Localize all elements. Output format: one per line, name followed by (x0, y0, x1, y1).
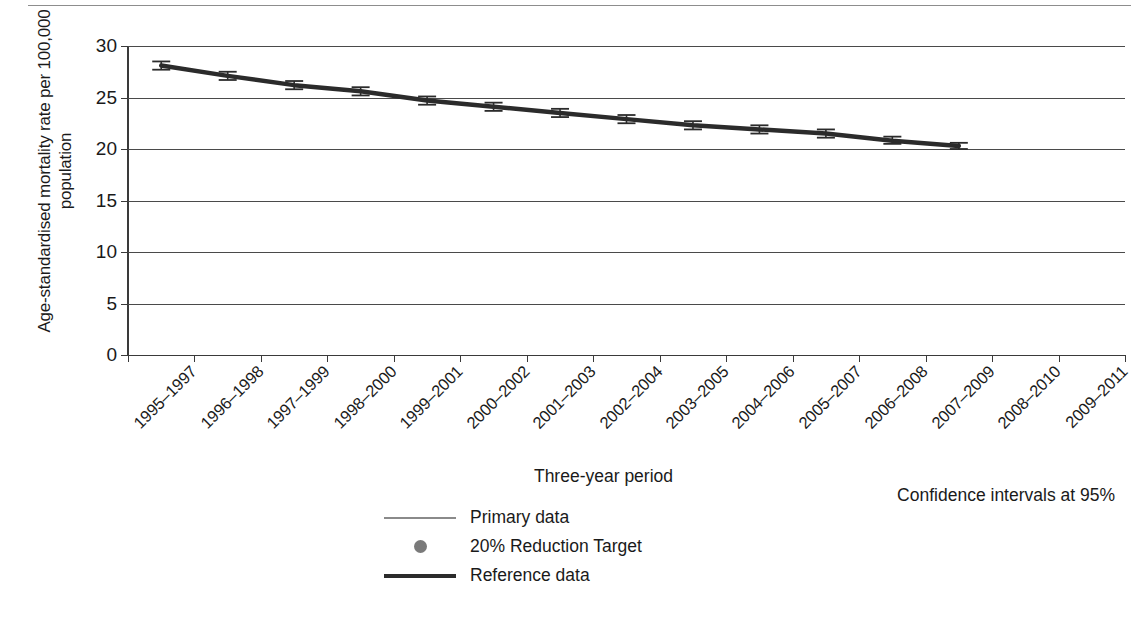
x-axis-category-label: 2007–2009 (928, 362, 999, 433)
y-axis-tick-mark (121, 304, 128, 305)
y-axis-tick-mark (121, 252, 128, 253)
x-axis-tick-mark (527, 355, 528, 362)
x-axis-category-label: 2003–2005 (662, 362, 733, 433)
x-axis-category-label: 1995–1997 (130, 362, 201, 433)
x-axis-tick-mark (926, 355, 927, 362)
x-axis-tick-mark (394, 355, 395, 362)
legend-item-label: 20% Reduction Target (470, 536, 642, 557)
x-axis-tick-mark (726, 355, 727, 362)
x-axis-category-label: 2008–2010 (994, 362, 1065, 433)
y-axis-tick-mark (121, 355, 128, 356)
dot-key-glyph (414, 540, 427, 553)
x-axis-tick-mark (327, 355, 328, 362)
y-axis-tick-label: 30 (96, 35, 117, 57)
x-axis-category-label: 2004–2006 (728, 362, 799, 433)
y-axis-tick-mark (121, 46, 128, 47)
legend-item-label: Primary data (470, 507, 569, 528)
x-axis-tick-mark (660, 355, 661, 362)
y-axis-tick-label: 5 (106, 293, 117, 315)
x-axis-tick-mark (128, 355, 129, 362)
plot-area: 051015202530 (128, 46, 1125, 355)
thin-line-key-glyph (384, 517, 456, 519)
y-axis-tick-label: 15 (96, 190, 117, 212)
chart-legend: Primary data20% Reduction TargetReferenc… (382, 503, 642, 590)
x-axis-category-label: 1998–2000 (329, 362, 400, 433)
dot-key (382, 540, 458, 553)
y-axis-tick-label: 0 (106, 344, 117, 366)
x-axis-category-label: 2002–2004 (595, 362, 666, 433)
confidence-interval-note: Confidence intervals at 95% (897, 485, 1115, 506)
thick-line-key-glyph (384, 574, 456, 578)
y-axis-tick-label: 25 (96, 87, 117, 109)
x-axis-category-label: 2000–2002 (462, 362, 533, 433)
legend-item-label: Reference data (470, 565, 590, 586)
x-axis-category-label: 1999–2001 (396, 362, 467, 433)
x-axis-tick-mark (460, 355, 461, 362)
y-axis-tick-mark (121, 201, 128, 202)
x-axis-tick-mark (593, 355, 594, 362)
x-axis-tick-mark (261, 355, 262, 362)
x-axis-tick-mark (859, 355, 860, 362)
page-top-rule (28, 5, 1131, 6)
x-axis-tick-mark (194, 355, 195, 362)
x-axis-category-label: 2001–2003 (529, 362, 600, 433)
x-axis-category-label: 2005–2007 (795, 362, 866, 433)
thick-line-key (382, 574, 458, 578)
x-axis-tick-mark (1059, 355, 1060, 362)
y-axis-tick-mark (121, 98, 128, 99)
x-axis-title: Three-year period (0, 466, 1137, 487)
x-axis-tick-mark (793, 355, 794, 362)
x-axis-category-label: 1996–1998 (197, 362, 268, 433)
chart-page: Age-standardised mortality rate per 100,… (0, 0, 1137, 617)
y-axis-tick-label: 20 (96, 138, 117, 160)
y-axis-title: Age-standardised mortality rate per 100,… (34, 1, 76, 341)
data-series-layer (128, 46, 1125, 355)
legend-item[interactable]: Reference data (382, 561, 642, 590)
x-axis-labels-group: 1995–19971996–19981997–19991998–20001999… (128, 362, 1125, 462)
y-axis-tick-mark (121, 149, 128, 150)
legend-item[interactable]: 20% Reduction Target (382, 532, 642, 561)
x-axis-category-label: 2006–2008 (861, 362, 932, 433)
thin-line-key (382, 517, 458, 519)
reference-data-line (161, 66, 959, 146)
x-axis-category-label: 1997–1999 (263, 362, 334, 433)
x-axis-title-text: Three-year period (534, 466, 673, 486)
x-axis-tick-mark (1125, 355, 1126, 362)
x-axis-category-label: 2009–2011 (1061, 362, 1131, 432)
x-axis-tick-mark (992, 355, 993, 362)
y-axis-tick-label: 10 (96, 241, 117, 263)
legend-item[interactable]: Primary data (382, 503, 642, 532)
